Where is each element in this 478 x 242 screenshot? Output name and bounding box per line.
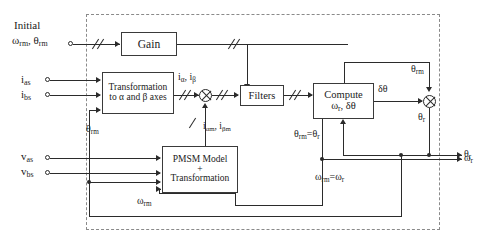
- wire-thetarm-top-from-compute: [344, 62, 345, 83]
- sub-as-v: as: [27, 155, 34, 164]
- wire-gain-out: [177, 44, 348, 45]
- sub-beta-m: βm: [222, 125, 231, 132]
- input-label-ias: ias: [21, 74, 31, 87]
- arrowhead-transform-in-2: [96, 92, 101, 98]
- wire-omega-fb-down: [322, 159, 323, 205]
- wire-ias: [50, 80, 100, 81]
- wire-pmsm-out-top: [205, 140, 206, 146]
- label-i-alpha-beta: iα, iβ: [178, 72, 196, 84]
- sub-rm-fb: rm: [144, 200, 152, 208]
- input-label-vas: vas: [21, 151, 33, 164]
- input-label-initial-line2: ωrm, θrm: [12, 35, 48, 48]
- compute-line-1: Compute: [324, 89, 363, 100]
- wire-theta-fb-up-trunk: [89, 205, 90, 217]
- wire-thetarm-top-h: [344, 62, 430, 63]
- wire-thetar-up-to-compute: [343, 124, 344, 155]
- transformation-block: Transformation to α and β axes: [102, 72, 174, 114]
- arrowhead-filters-in: [234, 92, 239, 98]
- bus-marker-transform-out: [179, 89, 193, 101]
- bus-marker-gain-out: [228, 38, 242, 50]
- sub-r-mult: r: [423, 116, 425, 124]
- pmsm-line-3: Transformation: [171, 174, 230, 184]
- pmsm-model-block: PMSM Model + Transformation: [162, 146, 238, 193]
- wire-gain-down-to-compute: [247, 44, 248, 89]
- bus-marker-iam-ibm: [189, 117, 203, 129]
- label-theta-rm-left: θrm: [86, 124, 99, 136]
- wire-thetarm-to-pmsm: [89, 182, 160, 183]
- sub-bs-v: bs: [27, 170, 34, 179]
- wire-omega-fb-to-local: [235, 193, 236, 206]
- multiplier-2: [423, 95, 436, 108]
- sub-rm-eq: rm: [299, 133, 307, 141]
- compute-line-2: ωr, δθ: [331, 100, 356, 113]
- junction-theta-fb: [399, 153, 403, 157]
- wire-vbs: [50, 173, 160, 174]
- label-delta-theta: δθ: [378, 84, 388, 94]
- label-omega-rm-feedback: ωrm: [137, 196, 152, 208]
- wire-vas: [50, 158, 160, 159]
- arrowhead-pmsm-in-4: [156, 186, 161, 192]
- sub-rm-2: rm: [39, 39, 48, 48]
- sub-r-eq: r: [317, 133, 319, 141]
- label-theta-r-mult: θr: [418, 112, 425, 124]
- wire-theta-fb-left: [89, 216, 402, 217]
- arrowhead-transform-in-1: [96, 77, 101, 83]
- arrowhead-mult2-top-in: [426, 87, 432, 92]
- wire-omegarm-local-h: [159, 193, 235, 194]
- wire-omega-r-from-compute: [322, 119, 323, 159]
- arrowhead-pmsm-in-1: [156, 155, 161, 161]
- sub-r-out-2: r: [471, 157, 473, 165]
- sub-bs-i: bs: [24, 93, 31, 102]
- bus-marker-filters-out: [289, 89, 303, 101]
- sub-r-eq2: r: [342, 176, 344, 184]
- arrowhead-pmsm-in-3: [156, 179, 161, 185]
- bus-marker-mult1-out: [216, 89, 230, 101]
- wire-compute-to-mult2: [374, 101, 422, 102]
- input-label-ibs: ibs: [21, 89, 31, 102]
- wire-mult2-down: [429, 108, 430, 155]
- label-i-alpha-m-beta-m: iαm, iβm: [203, 122, 231, 132]
- multiplier-1: [199, 89, 212, 102]
- sub-rm-left: rm: [91, 128, 99, 136]
- arrowhead-pmsm-in-2: [156, 170, 161, 176]
- output-label-omega-r: ωr: [464, 153, 473, 165]
- filters-block: Filters: [240, 85, 284, 106]
- label-theta-rm-top: θrm: [411, 64, 424, 76]
- wire-ibs: [50, 95, 100, 96]
- sub-rm-1: rm: [19, 39, 28, 48]
- input-label-vbs: vbs: [21, 166, 34, 179]
- compute-block: Compute ωr, δθ: [313, 83, 374, 119]
- diagram-canvas: Initial ωrm, θrm Gain ias ibs Transforma…: [0, 0, 478, 242]
- label-theta-rm-eq-theta-r: θrm=θr: [294, 129, 320, 141]
- arrowhead-transform-in-3: [96, 107, 101, 113]
- label-omega-rm-eq-omega-r: ωrm=ωr: [315, 172, 344, 184]
- sub-alpha-m: αm: [206, 125, 215, 132]
- arrowhead-gain-in: [115, 41, 120, 47]
- sub-beta-1: β: [192, 76, 196, 84]
- wire-omega-fb-left: [235, 205, 323, 206]
- wire-theta-fb-down: [401, 155, 402, 216]
- gain-block-label: Gain: [138, 38, 160, 50]
- arrowhead-mult1-bottom-in: [202, 103, 208, 108]
- transformation-line-2: to α and β axes: [109, 93, 166, 103]
- bus-marker-initial: [92, 38, 106, 50]
- input-label-initial-line1: Initial: [14, 20, 40, 31]
- sub-rm-top: rm: [416, 68, 424, 76]
- wire-thetarm-to-mult2: [429, 62, 430, 90]
- filters-block-label: Filters: [249, 90, 276, 101]
- arrowhead-output-omega-r: [457, 156, 462, 162]
- junction-theta-r: [427, 153, 431, 157]
- sub-alpha-1: α: [181, 76, 185, 84]
- wire-omega-r-bus: [322, 159, 462, 160]
- gain-block: Gain: [121, 32, 177, 56]
- sub-as-i: as: [24, 78, 31, 87]
